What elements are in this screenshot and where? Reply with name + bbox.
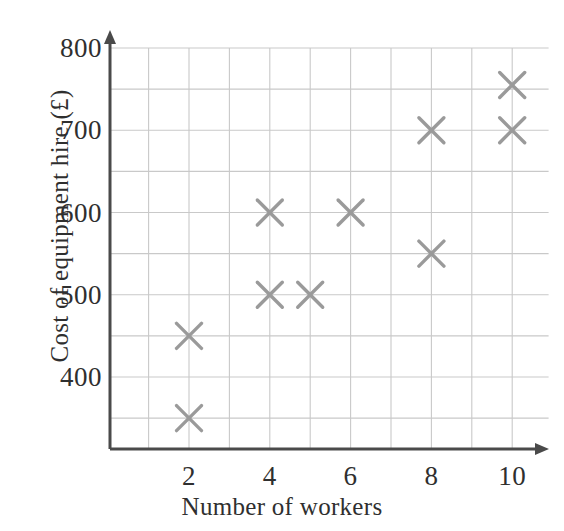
x-axis-title: Number of workers xyxy=(0,493,564,521)
x-tick-label: 2 xyxy=(182,461,196,492)
plot-canvas xyxy=(0,0,564,531)
x-tick-label: 8 xyxy=(424,461,438,492)
x-tick-label: 4 xyxy=(263,461,277,492)
x-tick-label: 6 xyxy=(344,461,358,492)
grid-lines xyxy=(110,48,549,449)
y-axis-title: Cost of equipment hire (£) xyxy=(46,26,74,426)
axis-lines xyxy=(104,30,549,455)
x-tick-label: 10 xyxy=(498,461,526,492)
scatter-plot-figure: 800700600500400 246810 Number of workers… xyxy=(0,0,564,531)
